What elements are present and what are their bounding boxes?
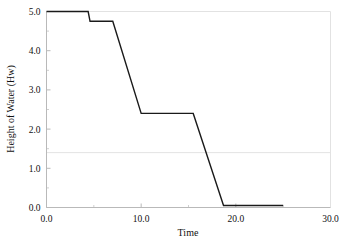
plot-background: [47, 12, 331, 208]
x-tick-label: 10.0: [133, 214, 150, 224]
chart-figure: 0.010.020.030.0 0.01.02.03.04.05.0 Time …: [0, 0, 349, 242]
x-tick-label: 20.0: [228, 214, 245, 224]
plot-area: [47, 12, 331, 208]
y-tick-label: 1.0: [29, 164, 41, 174]
y-tick-label: 5.0: [29, 7, 41, 17]
y-tick-label: 0.0: [29, 203, 41, 213]
y-tick-label: 4.0: [29, 46, 41, 56]
line-chart: 0.010.020.030.0 0.01.02.03.04.05.0 Time …: [0, 0, 349, 242]
x-tick-label: 0.0: [41, 214, 53, 224]
y-axis-title: Height of Water (Hw): [5, 65, 17, 153]
x-tick-label: 30.0: [322, 214, 339, 224]
x-axis-title: Time: [178, 227, 199, 238]
y-tick-label: 2.0: [29, 125, 41, 135]
y-tick-label: 3.0: [29, 85, 41, 95]
